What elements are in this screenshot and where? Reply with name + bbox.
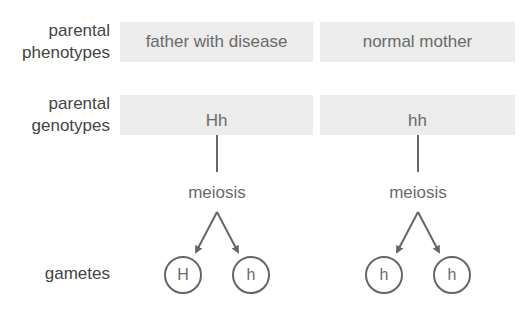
mother-gamete-1: h <box>365 266 403 284</box>
mother-arrow-left <box>397 212 418 252</box>
mother-gamete-2: h <box>433 266 471 284</box>
father-arrow-left <box>196 212 217 252</box>
father-arrow-right <box>217 212 238 252</box>
father-gamete-2: h <box>232 266 270 284</box>
mother-arrow-right <box>418 212 439 252</box>
father-gamete-1: H <box>164 266 202 284</box>
